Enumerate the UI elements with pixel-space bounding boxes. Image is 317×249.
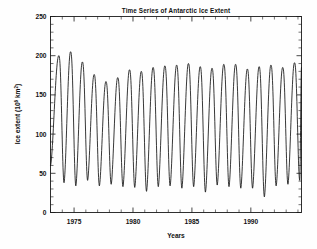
figure-container: Time Series of Antarctic Ice Extent 1975… <box>0 0 317 249</box>
y-tick-label: 250 <box>35 13 46 20</box>
plot-frame <box>51 17 302 213</box>
y-tick-label: 50 <box>39 170 47 177</box>
x-tick-label: 1985 <box>185 218 200 225</box>
y-tick-label: 200 <box>35 52 46 59</box>
x-tick-label: 1990 <box>243 218 258 225</box>
chart-title: Time Series of Antarctic Ice Extent <box>122 7 231 14</box>
axis-ticks <box>51 17 302 213</box>
x-tick-label: 1980 <box>126 218 141 225</box>
x-axis-label: Years <box>167 232 185 239</box>
ice-extent-series-line <box>51 52 302 197</box>
y-tick-label: 0 <box>43 209 47 216</box>
y-axis-label: Ice extent (106 km2) <box>14 84 22 144</box>
x-tick-label: 1975 <box>67 218 82 225</box>
y-tick-label: 100 <box>35 131 46 138</box>
axis-tick-labels: 1975198019851990050100150200250 <box>35 13 258 225</box>
y-tick-label: 150 <box>35 91 46 98</box>
antarctic-ice-extent-chart: Time Series of Antarctic Ice Extent 1975… <box>0 0 317 249</box>
